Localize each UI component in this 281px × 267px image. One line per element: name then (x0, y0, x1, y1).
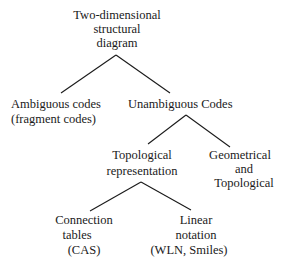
node-unambiguous-codes: Unambiguous Codes (128, 97, 233, 111)
node-root: Two-dimensional structural diagram (57, 8, 177, 50)
node-linear-line-2: notation (142, 228, 236, 242)
edge-unambiguous-topological (148, 115, 186, 144)
node-geometrical-line-2: and (200, 162, 280, 176)
node-root-line-3: diagram (57, 36, 177, 50)
edge-root-unambiguous (116, 55, 170, 93)
node-root-line-1: Two-dimensional (57, 8, 177, 22)
node-geometrical-line-3: Topological (200, 176, 280, 190)
node-connection-line-3: (CAS) (44, 243, 124, 257)
node-linear-line-3: (WLN, Smiles) (142, 243, 236, 257)
node-linear-notation: Linear notation (WLN, Smiles) (142, 213, 236, 257)
edge-topological-connection (90, 182, 141, 211)
node-root-line-2: structural (57, 22, 177, 36)
node-connection-line-2: tables (44, 228, 124, 242)
node-unambiguous-line-1: Unambiguous Codes (128, 97, 233, 111)
node-topological-line-2: representation (92, 164, 192, 178)
node-linear-line-1: Linear (142, 213, 236, 227)
edge-topological-linear (141, 182, 191, 210)
node-geometrical-line-1: Geometrical (200, 148, 280, 162)
node-connection-line-1: Connection (44, 213, 124, 227)
node-ambiguous-line-1: Ambiguous codes (11, 97, 101, 111)
node-connection-tables: Connection tables (CAS) (44, 213, 124, 257)
node-geometrical-topological: Geometrical and Topological (200, 148, 280, 190)
edge-unambiguous-geometrical (186, 115, 230, 147)
node-topological-representation: Topological representation (92, 148, 192, 178)
node-ambiguous-line-2: (fragment codes) (11, 112, 101, 126)
edge-root-ambiguous (61, 55, 116, 93)
node-topological-line-1: Topological (92, 148, 192, 162)
node-ambiguous-codes: Ambiguous codes (fragment codes) (11, 97, 101, 126)
